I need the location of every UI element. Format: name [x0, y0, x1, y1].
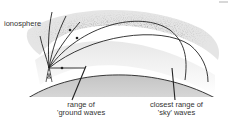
corner-mark [219, 1, 228, 3]
ionosphere-label: ionosphere [4, 20, 41, 28]
sky-range-label: closest range of 'sky' waves [150, 101, 203, 117]
radio-propagation-diagram: ionosphere range of 'ground waves closes… [0, 0, 230, 123]
ground-range-label-line2: 'ground waves [57, 109, 105, 117]
sky-range-label-line2: 'sky' waves [150, 109, 203, 117]
ionosphere-label-text: ionosphere [4, 19, 41, 28]
ground-range-label: range of 'ground waves [57, 101, 105, 117]
